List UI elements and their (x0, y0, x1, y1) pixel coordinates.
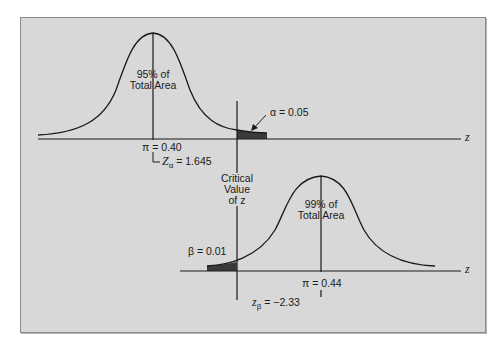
top-mean-label: π = 0.40 (142, 142, 182, 153)
alpha-arrow (254, 115, 266, 128)
z-alpha-bracket (153, 152, 160, 162)
z-alpha-label: Zα = 1.645 (162, 156, 212, 171)
top-distribution (38, 33, 461, 162)
z-beta-label: zβ = −2.33 (252, 297, 300, 312)
top-area-label-line2: Total Area (118, 80, 188, 91)
critical-value-label: Critical Value of z (217, 173, 257, 206)
z-alpha-value: = 1.645 (173, 155, 211, 167)
bottom-axis-z-label: z (465, 264, 470, 275)
z-beta-value: = −2.33 (261, 296, 300, 308)
bottom-mean-label: π = 0.44 (302, 278, 342, 289)
bottom-area-label: 99% of Total Area (286, 199, 356, 221)
top-area-label: 95% of Total Area (118, 69, 188, 91)
top-axis-z-label: z (465, 132, 470, 143)
alpha-label: α = 0.05 (270, 107, 308, 118)
z-alpha-prefix: Z (162, 154, 169, 168)
critical-value-line3: of z (217, 195, 257, 206)
beta-shaded-region (207, 262, 237, 271)
beta-label: β = 0.01 (188, 246, 226, 257)
bottom-area-label-line2: Total Area (286, 210, 356, 221)
